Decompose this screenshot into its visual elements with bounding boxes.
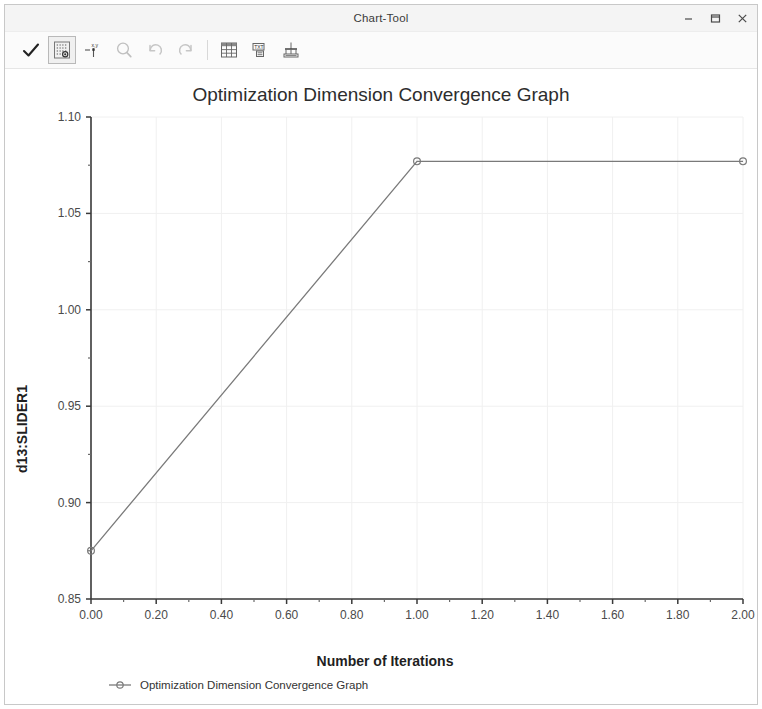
chart-export-icon[interactable] [277, 36, 305, 64]
y-tick-label: 1.05 [58, 206, 82, 220]
xy-axes-icon[interactable]: x,y [79, 36, 107, 64]
x-tick-label: 1.20 [471, 608, 495, 622]
x-tick-label: 1.60 [601, 608, 625, 622]
svg-text:TXT: TXT [254, 44, 263, 50]
x-tick-label: 1.00 [405, 608, 429, 622]
apply-check-icon[interactable] [17, 36, 45, 64]
y-tick-label: 1.00 [58, 303, 82, 317]
toolbar: x,y [5, 32, 757, 69]
close-icon[interactable] [736, 12, 749, 25]
minimize-icon[interactable] [682, 12, 695, 25]
toolbar-separator [207, 40, 208, 60]
x-tick-label: 0.20 [145, 608, 169, 622]
maximize-icon[interactable] [709, 12, 722, 25]
window-controls [682, 5, 749, 31]
chart-legend: Optimization Dimension Convergence Graph [109, 679, 368, 691]
chart-ticks [86, 117, 743, 604]
svg-text:x,y: x,y [92, 42, 99, 48]
legend-label: Optimization Dimension Convergence Graph [140, 679, 368, 691]
y-axis-label: d13:SLIDER1 [14, 385, 30, 473]
chart-tool-window: Chart-Tool [4, 4, 758, 705]
grid-points-icon[interactable] [48, 36, 76, 64]
undo-icon[interactable] [141, 36, 169, 64]
x-axis-label: Number of Iterations [317, 653, 454, 669]
chart-tick-labels: 0.850.900.951.001.051.100.000.200.400.60… [58, 110, 755, 622]
title-bar: Chart-Tool [5, 5, 757, 32]
chart-gridlines [91, 117, 743, 599]
x-tick-label: 0.00 [79, 608, 103, 622]
zoom-icon[interactable] [110, 36, 138, 64]
text-icon[interactable]: TXT [246, 36, 274, 64]
y-tick-label: 1.10 [58, 110, 82, 124]
x-tick-label: 2.00 [731, 608, 755, 622]
y-tick-label: 0.85 [58, 592, 82, 606]
redo-icon[interactable] [172, 36, 200, 64]
window-title: Chart-Tool [353, 12, 408, 24]
y-tick-label: 0.90 [58, 496, 82, 510]
x-tick-label: 0.60 [275, 608, 299, 622]
x-tick-label: 0.40 [210, 608, 234, 622]
convergence-line-chart[interactable]: Optimization Dimension Convergence Graph… [5, 69, 757, 706]
x-tick-label: 1.40 [536, 608, 560, 622]
table-icon[interactable] [215, 36, 243, 64]
y-tick-label: 0.95 [58, 399, 82, 413]
x-tick-label: 0.80 [340, 608, 364, 622]
chart-area: Optimization Dimension Convergence Graph… [5, 69, 757, 704]
x-tick-label: 1.80 [666, 608, 690, 622]
chart-title: Optimization Dimension Convergence Graph [192, 84, 569, 105]
